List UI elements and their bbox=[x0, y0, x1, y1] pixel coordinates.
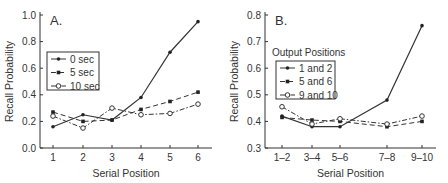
legend: Output Positions1 and 25 and 69 and 10 bbox=[272, 47, 345, 101]
y-tick-label: 1.0 bbox=[22, 10, 36, 21]
data-point bbox=[280, 104, 285, 109]
legend-label: 9 and 10 bbox=[299, 90, 338, 101]
data-point bbox=[196, 102, 201, 107]
y-tick-label: 0.4 bbox=[247, 116, 261, 127]
legend-marker bbox=[57, 57, 61, 61]
legend: 0 sec5 sec10 sec bbox=[47, 52, 99, 92]
data-point bbox=[338, 125, 342, 129]
data-point bbox=[81, 126, 86, 131]
data-point bbox=[338, 116, 343, 121]
data-point bbox=[81, 113, 85, 117]
legend-label: 0 sec bbox=[70, 54, 94, 65]
series-10-sec bbox=[51, 102, 201, 131]
y-tick-label: 0.8 bbox=[22, 36, 36, 47]
figure: 0.00.20.40.60.81.0123456Serial PositionR… bbox=[0, 0, 448, 183]
series-5-and-6 bbox=[280, 116, 424, 129]
y-tick-label: 0.3 bbox=[247, 143, 261, 154]
data-point bbox=[110, 118, 114, 122]
data-point bbox=[81, 120, 85, 124]
data-point bbox=[51, 125, 55, 129]
data-point bbox=[168, 111, 173, 116]
x-tick-label: 3 bbox=[109, 152, 115, 163]
x-tick-label: 5 bbox=[167, 152, 173, 163]
x-tick-label: 7–8 bbox=[379, 152, 396, 163]
data-point bbox=[139, 112, 144, 117]
data-point bbox=[168, 50, 172, 54]
y-axis-label: Recall Probability bbox=[3, 40, 15, 122]
data-point bbox=[280, 116, 284, 120]
data-point bbox=[139, 108, 143, 112]
y-tick-label: 0.5 bbox=[247, 89, 261, 100]
y-tick-label: 0.6 bbox=[22, 63, 36, 74]
legend-marker bbox=[286, 66, 290, 70]
legend-label: 5 sec bbox=[70, 67, 94, 78]
legend-marker bbox=[286, 80, 290, 84]
y-tick-label: 0.6 bbox=[247, 63, 261, 74]
data-point bbox=[196, 20, 200, 24]
legend-title: Output Positions bbox=[272, 47, 345, 58]
y-tick-label: 0.8 bbox=[247, 10, 261, 21]
y-tick-label: 0.4 bbox=[22, 89, 36, 100]
x-axis-label: Serial Position bbox=[92, 167, 159, 179]
x-tick-label: 3–4 bbox=[304, 152, 321, 163]
data-point bbox=[420, 114, 425, 119]
data-point bbox=[385, 98, 389, 102]
panel-a: 0.00.20.40.60.81.0123456Serial PositionR… bbox=[3, 10, 212, 180]
x-tick-label: 6 bbox=[195, 152, 201, 163]
panel-label: B. bbox=[275, 13, 287, 28]
x-tick-label: 1–2 bbox=[274, 152, 291, 163]
data-point bbox=[310, 122, 315, 127]
legend-marker bbox=[57, 71, 61, 75]
y-tick-label: 0.7 bbox=[247, 36, 261, 47]
data-point bbox=[139, 96, 143, 100]
legend-marker bbox=[56, 84, 61, 89]
data-point bbox=[420, 120, 424, 124]
legend-label: 5 and 6 bbox=[299, 76, 333, 87]
data-point bbox=[168, 100, 172, 104]
x-axis-label: Serial Position bbox=[317, 167, 384, 179]
y-tick-label: 0.0 bbox=[22, 143, 36, 154]
y-tick-label: 0.2 bbox=[22, 116, 36, 127]
y-axis-label: Recall Probability bbox=[228, 40, 240, 122]
x-tick-label: 1 bbox=[50, 152, 56, 163]
x-tick-label: 4 bbox=[138, 152, 144, 163]
data-point bbox=[110, 106, 115, 111]
x-tick-label: 9–10 bbox=[411, 152, 434, 163]
data-point bbox=[51, 114, 56, 119]
x-tick-label: 5–6 bbox=[332, 152, 349, 163]
data-point bbox=[385, 122, 390, 127]
legend-marker bbox=[285, 93, 290, 98]
legend-label: 1 and 2 bbox=[299, 63, 333, 74]
panel-label: A. bbox=[50, 13, 62, 28]
panel-b: 0.30.40.50.60.70.81–23–45–67–89–10Serial… bbox=[228, 10, 436, 180]
data-point bbox=[196, 90, 200, 94]
x-tick-label: 2 bbox=[80, 152, 86, 163]
data-point bbox=[420, 24, 424, 28]
legend-label: 10 sec bbox=[70, 81, 99, 92]
